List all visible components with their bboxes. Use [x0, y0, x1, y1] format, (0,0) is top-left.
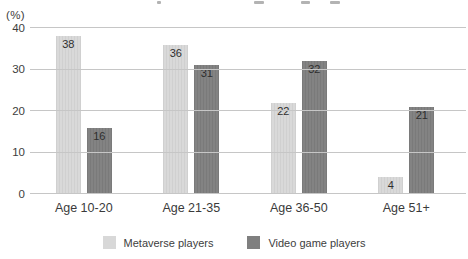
legend-item-metaverse-players: Metaverse players [103, 236, 214, 249]
bar-group-age-51-: 421 [353, 28, 461, 194]
bar-video-game-players-age-10-20: 16 [87, 128, 112, 194]
y-tick-label: 40 [0, 21, 25, 36]
bar-chart: (%) 010203040 381636312232421 Age 10-20A… [0, 0, 468, 259]
y-tick-label: 30 [0, 62, 25, 77]
legend-swatch-metaverse-players [103, 236, 116, 249]
gridline [30, 110, 466, 111]
category-label-age-36-50: Age 36-50 [245, 201, 353, 215]
gridline [30, 193, 466, 194]
bar-value-label: 38 [56, 38, 81, 50]
bar-group-age-21-35: 3631 [138, 28, 246, 194]
bar-metaverse-players-age-51-: 4 [378, 177, 403, 194]
bar-metaverse-players-age-21-35: 36 [163, 45, 188, 194]
gridline [30, 27, 466, 28]
category-label-age-51-: Age 51+ [353, 201, 461, 215]
y-tick-label: 10 [0, 145, 25, 160]
bar-video-game-players-age-36-50: 32 [302, 61, 327, 194]
gridline [30, 152, 466, 153]
bar-group-age-10-20: 3816 [30, 28, 138, 194]
bar-video-game-players-age-21-35: 31 [194, 65, 219, 194]
legend: Metaverse playersVideo game players [0, 236, 468, 249]
y-tick-label: 20 [0, 104, 25, 119]
legend-label: Metaverse players [124, 237, 214, 249]
bar-metaverse-players-age-36-50: 22 [271, 103, 296, 194]
plot-area: 381636312232421 [30, 28, 466, 194]
legend-label: Video game players [268, 237, 365, 249]
bar-value-label: 4 [378, 179, 403, 191]
bar-value-label: 36 [163, 47, 188, 59]
category-label-age-21-35: Age 21-35 [138, 201, 246, 215]
category-labels: Age 10-20Age 21-35Age 36-50Age 51+ [30, 201, 460, 215]
bar-group-age-36-50: 2232 [245, 28, 353, 194]
y-tick-label: 0 [0, 187, 25, 202]
legend-item-video-game-players: Video game players [247, 236, 365, 249]
bar-video-game-players-age-51-: 21 [409, 107, 434, 194]
gridline [30, 69, 466, 70]
legend-swatch-video-game-players [247, 236, 260, 249]
bar-value-label: 16 [87, 130, 112, 142]
bar-groups: 381636312232421 [30, 28, 460, 194]
bar-metaverse-players-age-10-20: 38 [56, 36, 81, 194]
category-label-age-10-20: Age 10-20 [30, 201, 138, 215]
